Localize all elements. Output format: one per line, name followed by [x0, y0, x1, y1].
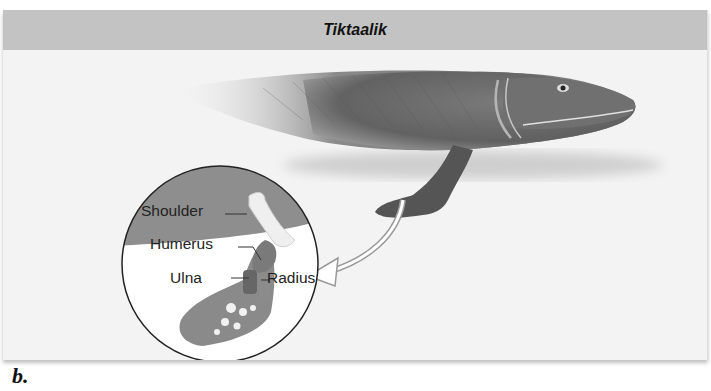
tiktaalik-illustration: [3, 50, 707, 360]
panel-label: b.: [12, 363, 29, 389]
label-ulna: Ulna: [170, 269, 202, 287]
body-shadow: [283, 151, 663, 179]
figure-title: Tiktaalik: [323, 21, 387, 39]
figure-header: Tiktaalik: [3, 10, 707, 50]
label-radius: Radius: [267, 269, 315, 287]
label-shoulder: Shoulder: [141, 202, 203, 220]
ulna-bone: [243, 270, 257, 294]
figure-panel: Tiktaalik: [3, 10, 708, 360]
fin-bone-inset: [113, 160, 333, 360]
label-humerus: Humerus: [150, 235, 213, 253]
